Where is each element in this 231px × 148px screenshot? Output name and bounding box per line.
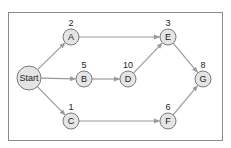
duration-label: 2 [68, 18, 73, 28]
node-label: B [81, 74, 87, 84]
node-label: C [68, 116, 75, 126]
duration-label: 10 [123, 60, 133, 70]
duration-label: 6 [165, 102, 170, 112]
node-label: F [165, 116, 171, 126]
network-diagram: StartA2B5C1D10E3F6G8 [0, 0, 231, 148]
duration-label: 5 [81, 60, 86, 70]
node-label: Start [19, 73, 39, 83]
node-label: A [68, 32, 74, 42]
node-label: D [125, 74, 132, 84]
node-start: Start [17, 66, 41, 90]
edge-start-to-b [41, 78, 76, 79]
node-label: E [165, 32, 171, 42]
duration-label: 8 [200, 60, 205, 70]
node-label: G [199, 74, 206, 84]
duration-label: 3 [165, 18, 170, 28]
duration-label: 1 [68, 102, 73, 112]
